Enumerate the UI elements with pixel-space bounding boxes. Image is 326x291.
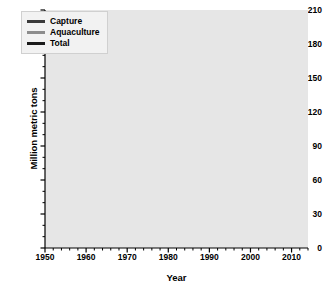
x-tick-label: 1980 (148, 252, 188, 262)
x-tick-label: 1970 (107, 252, 147, 262)
x-axis-title: Year (45, 272, 308, 283)
x-tick-label: 1960 (66, 252, 106, 262)
fisheries-production-chart: Million metric tons 2101801501209060300 … (0, 0, 326, 291)
legend-label: Capture (50, 16, 82, 27)
legend-swatch-icon (27, 42, 45, 45)
chart-legend: CaptureAquacultureTotal (21, 11, 108, 54)
legend-item: Capture (27, 16, 100, 27)
x-tick-label: 2000 (230, 252, 270, 262)
legend-item: Total (27, 38, 100, 49)
x-tick-label: 1990 (189, 252, 229, 262)
legend-item: Aquaculture (27, 27, 100, 38)
x-tick-label: 1950 (25, 252, 65, 262)
legend-swatch-icon (27, 31, 45, 34)
legend-label: Aquaculture (50, 27, 100, 38)
legend-swatch-icon (27, 20, 45, 23)
y-axis-title: Million metric tons (28, 49, 39, 209)
legend-label: Total (50, 38, 70, 49)
x-tick-label: 2010 (272, 252, 312, 262)
